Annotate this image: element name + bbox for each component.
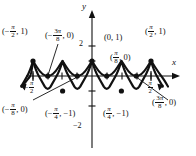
point-zero-1 bbox=[45, 73, 50, 78]
y-axis-arrow bbox=[89, 10, 95, 18]
y-axis-label: y bbox=[82, 2, 86, 11]
point-label-max-right: (π2, 1) bbox=[145, 24, 166, 39]
x-axis-label: x bbox=[172, 58, 176, 67]
y-tick-label-2: 2 bbox=[79, 40, 83, 48]
point-max-left bbox=[30, 58, 35, 63]
x-axis-arrow bbox=[172, 73, 180, 79]
point-label-zero-2: (−π8, 0) bbox=[2, 102, 27, 117]
graph-canvas bbox=[0, 0, 196, 156]
point-min-left bbox=[60, 88, 65, 93]
point-max-right bbox=[148, 58, 153, 63]
x-tick-label-neg-pi-over-2: −π2 bbox=[24, 80, 35, 94]
point-max-center bbox=[89, 58, 94, 63]
x-tick-label-pi-over-2: π2 bbox=[147, 80, 153, 94]
point-label-zero-3: (π8, 0) bbox=[110, 50, 131, 65]
point-label-max-left: (−π2, 1) bbox=[2, 24, 27, 39]
point-zero-4 bbox=[134, 73, 139, 78]
point-label-zero-1: (−3π8, 0) bbox=[45, 28, 74, 43]
point-zero-3 bbox=[104, 73, 109, 78]
point-label-max-center: (0, 1) bbox=[104, 33, 122, 42]
point-label-zero-4: (3π8, 0) bbox=[152, 95, 176, 110]
y-tick-label-neg-2: −2 bbox=[73, 122, 82, 130]
point-label-min-right: (π4, −1) bbox=[103, 106, 128, 121]
point-min-right bbox=[119, 88, 124, 93]
trig-graph-figure: y x 2 −2 −π2 π2 (−π2, 1) (−3π8, 0) (0, 1… bbox=[0, 0, 196, 156]
minus-sign: − bbox=[24, 83, 29, 92]
point-label-min-left: (−π4, −1) bbox=[45, 106, 75, 121]
